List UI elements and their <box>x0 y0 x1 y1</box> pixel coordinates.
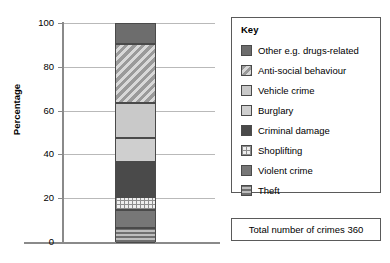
tick-label-60: 60 <box>20 105 54 116</box>
tick-mark-0 <box>58 242 63 243</box>
legend-swatch-theft-icon <box>241 185 252 196</box>
legend-label-violent-crime: Violent crime <box>258 165 313 176</box>
legend-item-theft[interactable]: Theft <box>241 183 280 197</box>
legend-label-shoplifting: Shoplifting <box>258 145 302 156</box>
bar-segment-criminal-damage[interactable] <box>116 162 155 197</box>
tick-label-100: 100 <box>20 17 54 28</box>
bar-segment-other[interactable] <box>116 24 155 44</box>
y-axis-line <box>62 22 64 243</box>
legend-label-vehicle-crime: Vehicle crime <box>258 85 315 96</box>
tick-mark-60 <box>58 111 63 112</box>
legend-swatch-criminal-damage-icon <box>241 125 252 136</box>
legend-swatch-anti-social-behaviour-icon <box>241 65 252 76</box>
tick-label-40: 40 <box>20 148 54 159</box>
tick-mark-80 <box>58 67 63 68</box>
legend-label-other: Other e.g. drugs-related <box>258 45 359 56</box>
tick-label-20: 20 <box>20 192 54 203</box>
tick-label-0: 0 <box>20 236 54 247</box>
tick-label-80: 80 <box>20 61 54 72</box>
bar-segment-theft[interactable] <box>116 228 155 244</box>
bar-segment-anti-social-behaviour[interactable] <box>116 44 155 103</box>
legend-swatch-vehicle-crime-icon <box>241 85 252 96</box>
bar-segment-violent-crime[interactable] <box>116 210 155 228</box>
legend-label-burglary: Burglary <box>258 105 293 116</box>
legend-item-other[interactable]: Other e.g. drugs-related <box>241 43 359 57</box>
legend-item-shoplifting[interactable]: Shoplifting <box>241 143 302 157</box>
legend-label-criminal-damage: Criminal damage <box>258 125 330 136</box>
legend-label-theft: Theft <box>258 185 280 196</box>
legend-item-criminal-damage[interactable]: Criminal damage <box>241 123 330 137</box>
legend-swatch-burglary-icon <box>241 105 252 116</box>
legend-swatch-other-icon <box>241 45 252 56</box>
tick-mark-100 <box>58 23 63 24</box>
legend-swatch-shoplifting-icon <box>241 145 252 156</box>
legend-label-anti-social-behaviour: Anti-social behaviour <box>258 65 346 76</box>
legend-swatch-violent-crime-icon <box>241 165 252 176</box>
total-crimes-box: Total number of crimes 360 <box>231 218 381 241</box>
tick-mark-20 <box>58 198 63 199</box>
bar-segment-burglary[interactable] <box>116 138 155 162</box>
legend-item-anti-social-behaviour[interactable]: Anti-social behaviour <box>241 63 346 77</box>
bar-segment-shoplifting[interactable] <box>116 197 155 210</box>
bar-segment-vehicle-crime[interactable] <box>116 103 155 138</box>
legend-item-vehicle-crime[interactable]: Vehicle crime <box>241 83 315 97</box>
legend-item-violent-crime[interactable]: Violent crime <box>241 163 313 177</box>
tick-mark-40 <box>58 154 63 155</box>
stacked-bar[interactable] <box>115 23 156 242</box>
legend-title: Key <box>241 24 258 35</box>
legend-item-burglary[interactable]: Burglary <box>241 103 293 117</box>
legend-box: Key Other e.g. drugs-related Anti-social… <box>231 17 381 193</box>
chart-region: Percentage 100 80 60 40 20 0 <box>0 0 225 263</box>
total-crimes-label: Total number of crimes 360 <box>249 224 364 235</box>
